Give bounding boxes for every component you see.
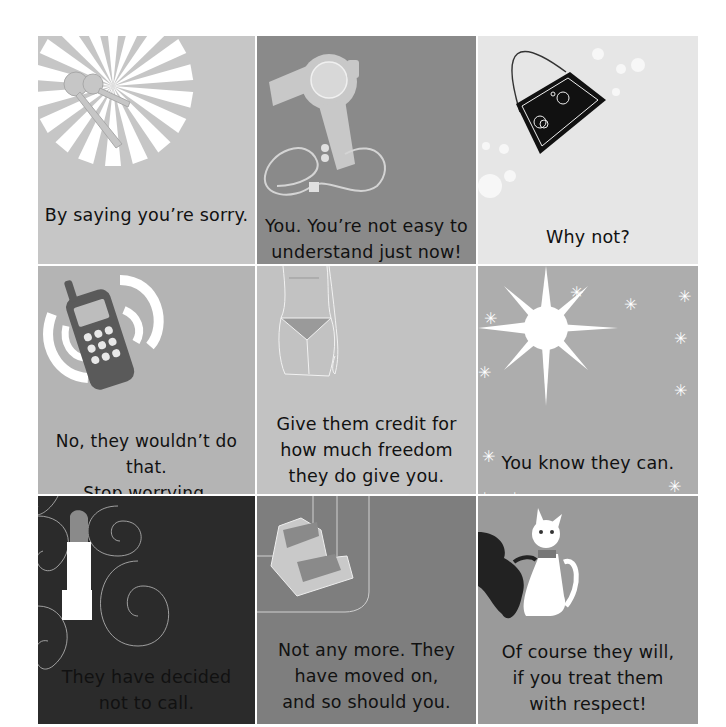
card-caption: You know they can. [478, 450, 698, 476]
card-caption: Not any more. They have moved on, and so… [257, 637, 476, 715]
card-caption: Why not? [478, 224, 698, 250]
svg-text:✳: ✳ [658, 491, 671, 494]
card-hairdryer: You. You’re not easy to understand just … [257, 36, 476, 264]
svg-text:✳: ✳ [484, 309, 497, 328]
svg-text:✳: ✳ [478, 489, 491, 494]
card-caption: By saying you’re sorry. [38, 202, 255, 228]
card-caption: No, they wouldn’t do that. Stop worrying… [38, 428, 255, 494]
keys-sunburst-icon [38, 36, 255, 264]
card-lipstick: They have decided not to call. [38, 496, 255, 724]
card-caption: Of course they will, if you treat them w… [478, 639, 698, 717]
svg-text:✳: ✳ [624, 295, 637, 314]
card-body: Give them credit for how much freedom th… [257, 266, 476, 494]
card-star: ✳✳✳ ✳✳✳ ✳✳✳ ✳✳✳✳ You know they can. [478, 266, 698, 494]
card-cat: Of course they will, if you treat them w… [478, 496, 698, 724]
svg-text:✳: ✳ [562, 491, 575, 494]
svg-text:✳: ✳ [674, 329, 687, 348]
card-caption: You. You’re not easy to understand just … [257, 213, 476, 264]
svg-text:✳: ✳ [674, 381, 687, 400]
card-caption: They have decided not to call. [38, 664, 255, 716]
card-handbag: Why not? [478, 36, 698, 264]
svg-text:✳: ✳ [570, 283, 583, 302]
answer-card-grid: By saying you’re sorry. You. You’re not … [38, 36, 696, 724]
card-shoe: Not any more. They have moved on, and so… [257, 496, 476, 724]
card-keys: By saying you’re sorry. [38, 36, 255, 264]
svg-text:✳: ✳ [478, 363, 491, 382]
svg-text:✳: ✳ [508, 489, 521, 494]
svg-text:✳: ✳ [678, 287, 691, 306]
card-phone: No, they wouldn’t do that. Stop worrying… [38, 266, 255, 494]
card-caption: Give them credit for how much freedom th… [257, 411, 476, 489]
